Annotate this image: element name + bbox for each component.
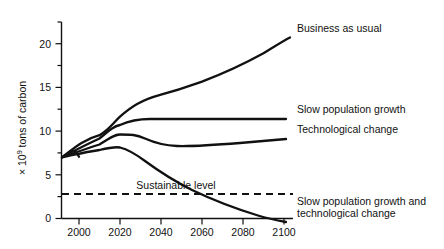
annotation-combined-line1: Slow population growth and	[297, 195, 426, 207]
x-tick-label-2000: 2000	[67, 226, 91, 238]
y-tick-labels: 0 5 10 15 20	[39, 38, 51, 225]
carbon-emissions-scenarios-chart: 0 5 10 15 20 × 109 tons of carbon 2000 2…	[0, 0, 444, 249]
annotation-slow-population-growth: Slow population growth	[297, 103, 406, 115]
chart-svg: 0 5 10 15 20 × 109 tons of carbon 2000 2…	[0, 0, 444, 249]
y-tick-label-20: 20	[39, 38, 51, 50]
annotation-technological-change: Technological change	[297, 123, 398, 135]
y-axis-title: × 109 tons of carbon	[15, 81, 28, 175]
series-annotations: Business as usual Slow population growth…	[297, 22, 426, 219]
y-tick-label-5: 5	[45, 169, 51, 181]
y-axis-title-prefix: × 10	[16, 154, 28, 175]
y-tick-label-0: 0	[45, 212, 51, 224]
annotation-combined-line2: technological change	[297, 207, 396, 219]
y-major-ticks	[56, 44, 62, 219]
x-ticks	[79, 219, 284, 225]
curve-technological-change	[62, 135, 286, 158]
x-tick-labels: 2000 2020 2040 2060 2080 2100	[67, 226, 296, 238]
x-tick-label-2100: 2100	[272, 226, 296, 238]
x-tick-label-2080: 2080	[231, 226, 255, 238]
annotation-business-as-usual: Business as usual	[297, 22, 382, 34]
x-tick-label-2060: 2060	[190, 226, 214, 238]
y-tick-label-15: 15	[39, 81, 51, 93]
x-tick-label-2040: 2040	[149, 226, 173, 238]
y-tick-label-10: 10	[39, 125, 51, 137]
svg-text:× 109 tons of carbon: × 109 tons of carbon	[15, 81, 28, 175]
y-axis-title-suffix: tons of carbon	[16, 81, 28, 151]
x-tick-label-2020: 2020	[108, 226, 132, 238]
